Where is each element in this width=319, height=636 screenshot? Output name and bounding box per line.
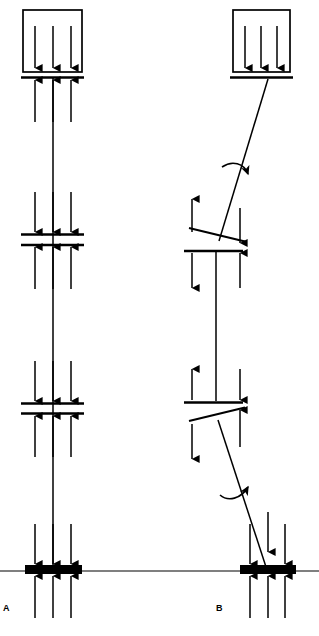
panel-b-upper-inclined-column — [219, 79, 268, 241]
panel-a-label: A — [3, 604, 10, 613]
panel-a-box-load-arrows — [35, 26, 71, 68]
panel-a-upper-floor-reaction-arrows — [35, 247, 71, 289]
panel-a-base-reaction-arrows — [35, 576, 71, 618]
panel-a-base-load-arrows — [35, 524, 71, 564]
panel-b-lower-inclined-column — [218, 420, 267, 570]
panel-a-upper-floor-load-arrows — [35, 192, 71, 232]
panel-b-upper-plate-shear-arrows — [192, 199, 240, 243]
figure-canvas: A B — [0, 0, 319, 636]
structural-load-path-diagram — [0, 0, 319, 636]
panel-b-upper-rotation-moment-icon — [222, 163, 248, 174]
panel-b-base-load-arrows — [250, 512, 285, 564]
panel-b-base-reaction-arrows — [250, 576, 285, 618]
panel-a-lower-floor-reaction-arrows — [35, 416, 71, 457]
panel-b-label: B — [216, 604, 223, 613]
panel-a-lower-floor-load-arrows — [35, 361, 71, 401]
panel-a — [21, 10, 84, 618]
panel-a-foundation-block — [25, 565, 82, 574]
panel-b — [184, 10, 296, 618]
panel-b-lower-plate-shear-arrows — [192, 410, 240, 459]
panel-b-foundation-block — [240, 565, 296, 574]
panel-b-lower-tilted-plate — [189, 408, 245, 422]
panel-b-upper-tilted-plate — [189, 228, 245, 242]
panel-b-box-load-arrows — [245, 26, 277, 68]
